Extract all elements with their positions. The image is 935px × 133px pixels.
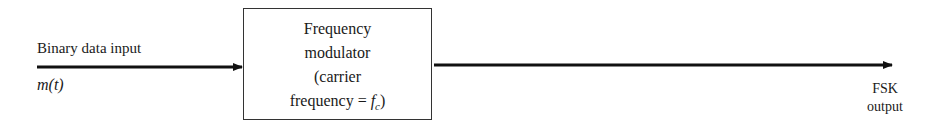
output-line-2: output [855,98,915,116]
output-line-1: FSK [855,80,915,98]
block-label: Frequency modulator (carrier frequency =… [244,17,431,118]
connection-arrows [0,0,935,133]
input-signal: m(t) [37,77,64,93]
block-line-3: (carrier [244,65,431,89]
frequency-modulator-block: Frequency modulator (carrier frequency =… [243,8,432,120]
block-line-4: frequency = fc) [244,89,431,118]
close-paren: ) [380,92,385,109]
block-line-1: Frequency [244,17,431,41]
output-label: FSK output [855,80,915,116]
input-label: Binary data input [37,41,141,56]
block-line-2: modulator [244,41,431,65]
carrier-eq-text: frequency = [290,92,371,109]
